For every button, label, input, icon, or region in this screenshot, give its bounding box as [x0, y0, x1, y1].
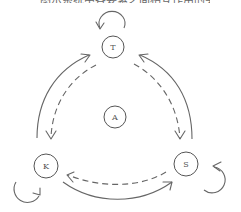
- edge-s-to-t-solid: [139, 54, 192, 139]
- node-k-label: K: [43, 162, 50, 171]
- edge-s-to-k-dashed: [67, 172, 166, 184]
- node-t-label: T: [110, 43, 116, 52]
- node-t: T: [102, 36, 124, 58]
- edge-t-to-k-dashed: [46, 65, 96, 139]
- node-a-label: A: [111, 113, 118, 122]
- diagram-canvas: 图示系统中各要素之间相互作用的关系: [0, 0, 241, 212]
- self-loop-k: [14, 182, 40, 202]
- edge-t-to-s-dashed: [134, 64, 185, 139]
- node-s: S: [174, 152, 198, 176]
- self-loop-t: [96, 11, 125, 29]
- self-loop-s: [204, 162, 225, 193]
- cycle-diagram: T A K S: [0, 0, 241, 212]
- node-k: K: [34, 154, 58, 178]
- node-s-label: S: [183, 160, 188, 169]
- node-a: A: [104, 106, 126, 128]
